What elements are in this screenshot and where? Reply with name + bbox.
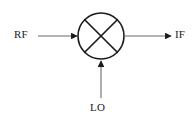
if-port-label: IF [175,29,185,40]
lo-port-label: LO [90,102,105,113]
rf-port-label: RF [14,29,28,40]
mixer-diagram: RF IF LO [0,0,194,122]
